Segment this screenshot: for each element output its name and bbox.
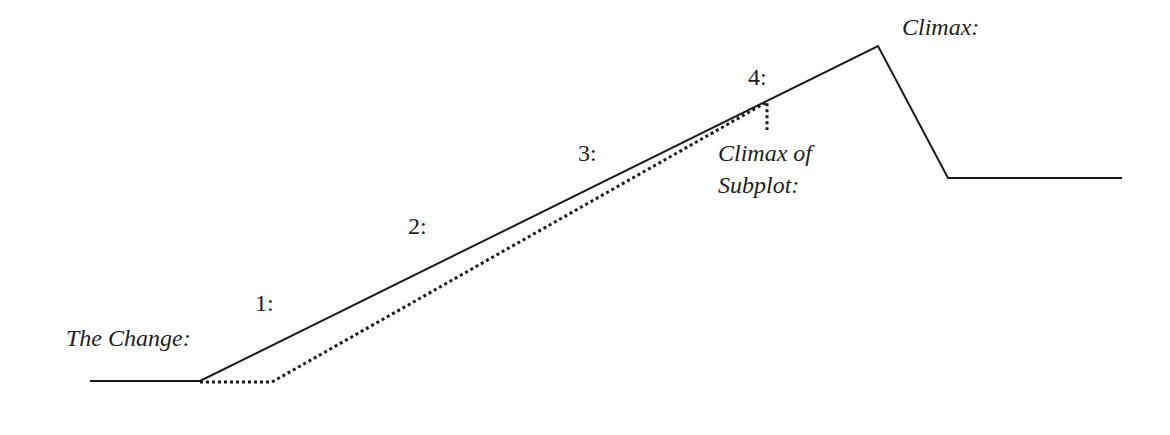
climax-label: Climax: <box>902 14 979 40</box>
main-plot-line <box>90 46 1122 381</box>
subplot-climax-label-line2: Subplot: <box>718 172 799 198</box>
step-3-label: 3: <box>578 140 597 166</box>
the-change-label: The Change: <box>66 325 191 351</box>
step-2-label: 2: <box>408 213 427 239</box>
step-1-label: 1: <box>255 290 274 316</box>
plot-diagram <box>0 0 1170 435</box>
subplot-climax-label-line1: Climax of <box>718 140 812 166</box>
step-4-label: 4: <box>748 64 767 90</box>
